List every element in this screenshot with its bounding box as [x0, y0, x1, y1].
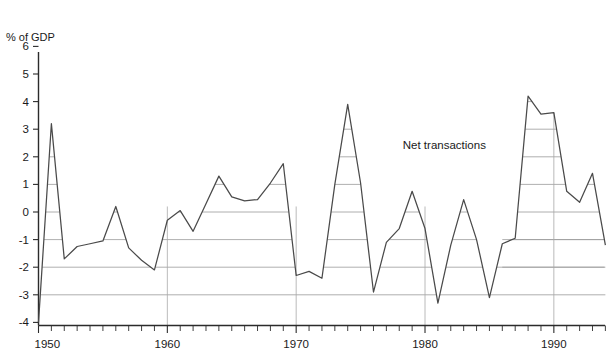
- chart-annotations: Net transactions: [403, 139, 486, 151]
- y-tick-label: 2: [23, 151, 29, 163]
- chart-root: % of GDP 6543210-1-2-3-4 195019601970198…: [0, 0, 613, 363]
- x-axis-ticks: 19501960197019801990: [35, 326, 606, 351]
- net-transactions-line: [39, 96, 606, 322]
- y-tick-label: 1: [23, 178, 29, 190]
- y-axis-caption: % of GDP: [6, 31, 55, 43]
- vertical-gridlines: [167, 113, 554, 326]
- y-tick-label: 5: [23, 68, 29, 80]
- y-tick-label: 3: [23, 123, 29, 135]
- y-tick-label: 0: [23, 206, 29, 218]
- x-tick-label: 1960: [155, 338, 181, 350]
- y-tick-label: 4: [23, 96, 30, 108]
- horizontal-gridlines: [40, 102, 605, 295]
- y-tick-label: -4: [19, 316, 30, 328]
- y-tick-label: -1: [19, 234, 29, 246]
- y-tick-label: -3: [19, 289, 29, 301]
- y-tick-label: 6: [23, 40, 29, 52]
- y-tick-label: -2: [19, 261, 29, 273]
- x-tick-label: 1950: [35, 338, 61, 350]
- x-tick-label: 1970: [283, 338, 309, 350]
- line-chart-svg: % of GDP 6543210-1-2-3-4 195019601970198…: [0, 0, 613, 363]
- x-tick-label: 1980: [412, 338, 438, 350]
- x-tick-label: 1990: [541, 338, 567, 350]
- y-axis-ticks: 6543210-1-2-3-4: [19, 40, 39, 328]
- series-annotation-label: Net transactions: [403, 139, 486, 151]
